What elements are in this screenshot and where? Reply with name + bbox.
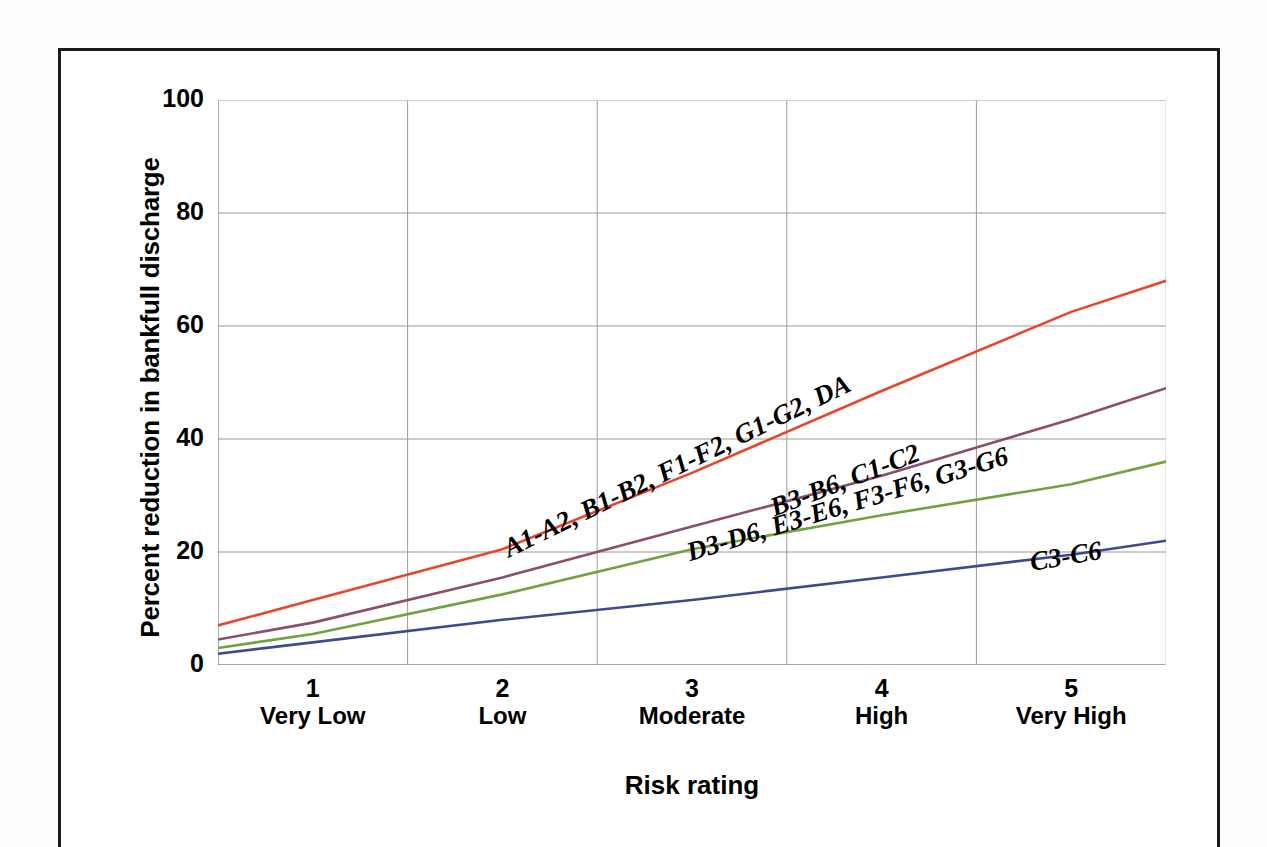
x-tick-group-3: 3Moderate: [592, 675, 792, 731]
x-tick-number: 1: [213, 675, 413, 701]
x-axis-tick-labels: 1Very Low2Low3Moderate4High5Very High: [218, 675, 1166, 765]
x-tick-group-1: 1Very Low: [213, 675, 413, 731]
x-tick-category: Very Low: [213, 701, 413, 731]
y-tick-label: 100: [124, 86, 204, 111]
x-tick-number: 2: [402, 675, 602, 701]
x-tick-category: Low: [402, 701, 602, 731]
y-tick-label: 0: [124, 651, 204, 676]
y-axis-tick-labels: 100806040200: [110, 100, 204, 665]
plot-area: [218, 100, 1166, 665]
series-line-2: [218, 388, 1166, 639]
y-tick-label: 60: [124, 312, 204, 337]
plot-svg: [218, 100, 1166, 665]
x-tick-group-2: 2Low: [402, 675, 602, 731]
scanned-page: Percent reduction in bankfull discharge …: [0, 0, 1267, 847]
gridlines: [218, 100, 1166, 665]
x-tick-category: High: [782, 701, 982, 731]
x-tick-category: Moderate: [592, 701, 792, 731]
y-tick-label: 80: [124, 199, 204, 224]
x-tick-number: 5: [971, 675, 1171, 701]
x-tick-group-5: 5Very High: [971, 675, 1171, 731]
x-tick-number: 4: [782, 675, 982, 701]
axis-lines: [218, 100, 1166, 665]
x-tick-category: Very High: [971, 701, 1171, 731]
y-tick-label: 20: [124, 538, 204, 563]
y-tick-label: 40: [124, 425, 204, 450]
x-axis-title: Risk rating: [218, 770, 1166, 801]
chart-figure: Percent reduction in bankfull discharge …: [0, 0, 1267, 847]
x-tick-group-4: 4High: [782, 675, 982, 731]
x-tick-number: 3: [592, 675, 792, 701]
